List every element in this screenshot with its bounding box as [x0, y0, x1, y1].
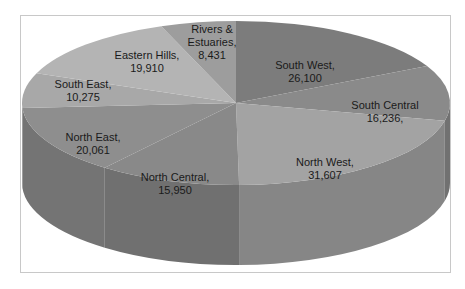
label-south-east: South East, 10,275: [55, 78, 112, 104]
label-rivers-estuaries: Rivers & Estuaries, 8,431: [188, 23, 237, 62]
label-north-central: North Central, 15,950: [141, 171, 209, 197]
label-south-central: South Central 16,236,: [351, 99, 418, 125]
label-north-east: North East, 20,061: [65, 131, 120, 157]
label-eastern-hills: Eastern Hills, 19,910: [115, 49, 180, 75]
label-north-west: North West, 31,607: [296, 156, 354, 182]
label-south-west: South West, 26,100: [275, 59, 335, 85]
